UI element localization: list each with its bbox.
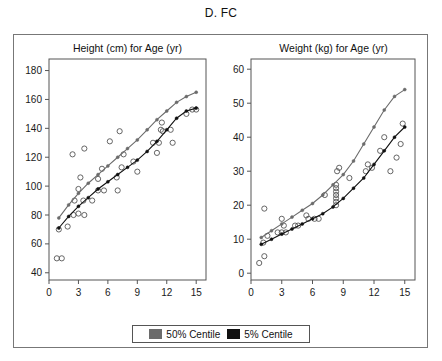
y-tick-label: 140	[25, 123, 42, 134]
series-marker	[342, 173, 345, 176]
legend-item-50-centile: 50% Centile	[149, 329, 220, 340]
series-marker	[165, 110, 168, 113]
series-marker	[332, 205, 335, 208]
series-marker	[136, 138, 139, 141]
scatter-point	[398, 141, 403, 146]
y-tick-label: 180	[25, 65, 42, 76]
series-marker	[280, 222, 283, 225]
x-tick-label: 15	[399, 287, 411, 298]
series-marker	[195, 91, 198, 94]
series-marker	[301, 209, 304, 212]
y-tick-label: 0	[238, 268, 244, 279]
y-tick-label: 10	[233, 234, 245, 245]
scatter-point	[95, 176, 100, 181]
series-marker	[126, 166, 129, 169]
scatter-point	[347, 175, 352, 180]
series-marker	[373, 126, 376, 129]
series-marker	[301, 222, 304, 225]
chart-legend: 50% Centile 5% Centile	[132, 325, 310, 343]
x-tick-label: 6	[310, 287, 316, 298]
series-marker	[146, 150, 149, 153]
scatter-point	[154, 150, 159, 155]
y-tick-label: 60	[233, 64, 245, 75]
scatter-point	[82, 146, 87, 151]
series-marker	[321, 194, 324, 197]
scatter-point	[101, 188, 106, 193]
scatter-point	[115, 188, 120, 193]
scatter-point	[65, 224, 70, 229]
y-tick-label: 60	[31, 238, 43, 249]
axes-frame	[49, 59, 206, 280]
legend-label-50-centile: 50% Centile	[166, 329, 220, 340]
series-marker	[175, 101, 178, 104]
series-marker	[270, 229, 273, 232]
scatter-point	[117, 129, 122, 134]
series-marker	[280, 233, 283, 236]
scatter-point	[262, 254, 267, 259]
x-tick-label: 9	[135, 287, 141, 298]
scatter-point	[59, 256, 64, 261]
y-tick-label: 100	[25, 181, 42, 192]
series-marker	[87, 196, 90, 199]
x-tick-label: 3	[279, 287, 285, 298]
series-marker	[57, 216, 60, 219]
x-tick-label: 0	[46, 287, 52, 298]
series-marker	[342, 197, 345, 200]
x-tick-label: 9	[340, 287, 346, 298]
series-marker	[270, 238, 273, 241]
scatter-point	[54, 256, 59, 261]
chart-plot-area: 4060801001201401601800369121501020304050…	[0, 0, 442, 361]
scatter-point	[378, 148, 383, 153]
series-marker	[362, 143, 365, 146]
panel-right: 010203040506003691215	[233, 59, 415, 298]
scatter-point	[394, 155, 399, 160]
series-marker	[260, 236, 263, 239]
series-marker	[57, 227, 60, 230]
series-marker	[67, 215, 70, 218]
scatter-point	[159, 120, 164, 125]
series-marker	[332, 183, 335, 186]
series-marker	[393, 95, 396, 98]
scatter-point	[78, 175, 83, 180]
scatter-point	[107, 139, 112, 144]
scatter-point	[135, 169, 140, 174]
y-tick-label: 120	[25, 152, 42, 163]
series-marker	[106, 164, 109, 167]
series-marker	[155, 140, 158, 143]
y-tick-label: 20	[233, 200, 245, 211]
axes-frame	[251, 59, 415, 280]
series-marker	[185, 95, 188, 98]
series-marker	[155, 118, 158, 121]
legend-item-5-centile: 5% Centile	[227, 329, 292, 340]
series-marker	[116, 156, 119, 159]
scatter-point	[388, 169, 393, 174]
series-marker	[126, 147, 129, 150]
x-tick-label: 12	[368, 287, 380, 298]
series-line	[59, 92, 196, 218]
series-marker	[185, 110, 188, 113]
scatter-point	[119, 165, 124, 170]
series-marker	[77, 192, 80, 195]
series-marker	[77, 205, 80, 208]
scatter-point	[90, 198, 95, 203]
series-marker	[373, 163, 376, 166]
scatter-point	[170, 140, 175, 145]
x-tick-label: 15	[191, 287, 203, 298]
y-tick-label: 160	[25, 94, 42, 105]
series-marker	[403, 126, 406, 129]
series-marker	[291, 216, 294, 219]
legend-swatch-50-centile	[149, 329, 162, 339]
legend-swatch-5-centile	[227, 329, 240, 339]
y-tick-label: 40	[31, 267, 43, 278]
series-marker	[97, 173, 100, 176]
x-tick-label: 0	[248, 287, 254, 298]
series-marker	[352, 160, 355, 163]
scatter-point	[279, 216, 284, 221]
series-marker	[106, 180, 109, 183]
series-marker	[146, 128, 149, 131]
scatter-point	[76, 211, 81, 216]
series-marker	[260, 243, 263, 246]
series-marker	[352, 187, 355, 190]
scatter-point	[70, 152, 75, 157]
series-marker	[311, 217, 314, 220]
